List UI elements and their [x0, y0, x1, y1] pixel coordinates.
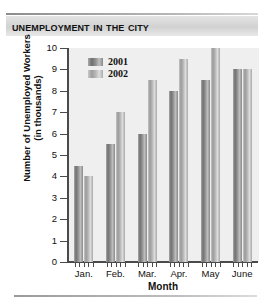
bar-2002-may: [211, 48, 220, 262]
x-tick-label: June: [222, 268, 262, 279]
x-tick-mark: [88, 262, 89, 267]
x-tick-mark: [143, 262, 144, 267]
title-top-rule: [6, 13, 258, 15]
x-tick-mark: [93, 262, 94, 267]
x-tick-mark: [125, 262, 126, 267]
y-tick-mark: [60, 134, 67, 135]
y-tick-mark: [60, 219, 67, 220]
x-tick-mark: [238, 262, 239, 267]
x-tick-mark: [251, 262, 252, 267]
x-tick-mark: [211, 262, 212, 267]
legend-label: 2002: [108, 68, 128, 79]
y-tick-mark: [60, 262, 67, 263]
y-tick-label: 3: [38, 192, 57, 203]
x-tick-mark: [215, 262, 216, 267]
bar-2001-may: [201, 80, 210, 262]
y-tick-mark: [60, 176, 67, 177]
bar-2002-june: [243, 69, 252, 262]
x-tick-mark: [202, 262, 203, 267]
legend-swatch-icon: [88, 58, 103, 66]
x-tick-mark: [75, 262, 76, 267]
y-tick-label: 0: [38, 256, 57, 267]
y-tick-mark: [60, 48, 67, 49]
y-tick-mark: [60, 155, 67, 156]
x-tick-mark: [147, 262, 148, 267]
y-tick-label: 1: [38, 235, 57, 246]
chart-page: Unemployment in the City 012345678910 Ja…: [0, 0, 269, 302]
y-tick-label: 2: [38, 213, 57, 224]
chart-legend: 20012002: [88, 56, 128, 80]
y-tick-mark: [60, 198, 67, 199]
legend-item-2002: 2002: [88, 68, 128, 79]
legend-item-2001: 2001: [88, 56, 128, 67]
bar-2001-apr: [169, 91, 178, 262]
x-tick-mark: [107, 262, 108, 267]
y-axis-title: Number of Unemployed Workers(in thousand…: [21, 23, 43, 193]
x-tick-mark: [79, 262, 80, 267]
legend-label: 2001: [108, 56, 128, 67]
x-tick-mark: [152, 262, 153, 267]
x-tick-mark: [188, 262, 189, 267]
y-tick-mark: [60, 91, 67, 92]
x-tick-mark: [84, 262, 85, 267]
bar-2002-feb: [116, 112, 125, 262]
x-tick-mark: [116, 262, 117, 267]
y-axis-title-line2: (in thousands): [32, 23, 43, 193]
bars-layer: [68, 48, 258, 262]
x-tick-mark: [120, 262, 121, 267]
bar-2001-feb: [106, 144, 115, 262]
x-tick-mark: [138, 262, 139, 267]
x-tick-mark: [156, 262, 157, 267]
legend-swatch-icon: [88, 70, 103, 78]
y-tick-mark: [60, 241, 67, 242]
bar-2001-june: [233, 69, 242, 262]
x-tick-mark: [183, 262, 184, 267]
y-tick-mark: [60, 69, 67, 70]
x-tick-mark: [242, 262, 243, 267]
bar-2002-mar: [148, 80, 157, 262]
bar-2001-mar: [138, 134, 147, 262]
x-tick-mark: [233, 262, 234, 267]
x-axis-title: Month: [68, 281, 258, 292]
x-tick-mark: [206, 262, 207, 267]
bottom-rule: [14, 295, 257, 297]
x-tick-mark: [247, 262, 248, 267]
y-axis-title-line1: Number of Unemployed Workers: [21, 23, 32, 193]
bar-2001-jan: [74, 166, 83, 262]
x-tick-mark: [170, 262, 171, 267]
x-tick-mark: [179, 262, 180, 267]
x-tick-mark: [220, 262, 221, 267]
y-tick-mark: [60, 112, 67, 113]
x-tick-mark: [174, 262, 175, 267]
bar-2002-jan: [84, 176, 93, 262]
x-tick-mark: [111, 262, 112, 267]
bar-2002-apr: [179, 59, 188, 262]
